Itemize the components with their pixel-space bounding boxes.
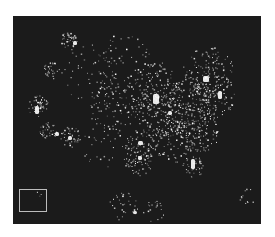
night-lights-satellite-image xyxy=(13,16,261,224)
inset-box xyxy=(19,189,47,212)
city-lights-layer xyxy=(13,16,261,224)
